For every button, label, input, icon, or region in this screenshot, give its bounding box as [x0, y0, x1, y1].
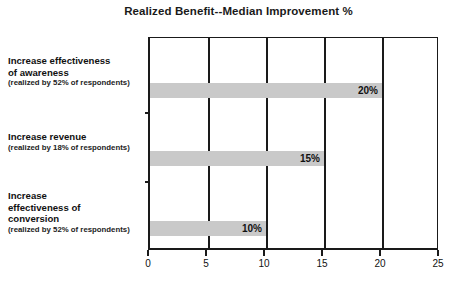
x-axis-tick-25 — [437, 250, 439, 256]
category-label-revenue-main: Increase revenue — [8, 131, 146, 143]
y-axis-tick — [145, 181, 150, 183]
category-label-awareness-sub: (realized by 52% of respondents) — [8, 78, 146, 88]
plot-area: 20%15%10% — [148, 37, 438, 250]
category-label-awareness: Increase effectiveness of awareness (rea… — [8, 55, 156, 88]
x-axis-tick-20 — [379, 250, 381, 256]
x-axis-tick-5 — [205, 250, 207, 256]
x-axis-tick-0 — [147, 250, 149, 256]
bar-value-label: 15% — [150, 151, 324, 166]
y-axis-tick — [145, 112, 150, 114]
category-label-conversion: Increase effectiveness of conversion (re… — [8, 190, 156, 235]
x-axis-label-20: 20 — [365, 258, 395, 269]
category-label-awareness-main: Increase effectiveness of awareness — [8, 55, 146, 78]
x-axis-label-15: 15 — [307, 258, 337, 269]
x-axis-tick-10 — [263, 250, 265, 256]
category-label-revenue-sub: (realized by 18% of respondents) — [8, 143, 146, 153]
category-label-revenue: Increase revenue (realized by 18% of res… — [8, 131, 156, 153]
gridline-5 — [208, 38, 210, 248]
x-axis-label-5: 5 — [191, 258, 221, 269]
bar-value-label: 10% — [150, 221, 266, 236]
gridline-15 — [324, 38, 326, 248]
gridline-10 — [266, 38, 268, 248]
bar-value-label: 20% — [150, 83, 382, 98]
x-axis-label-0: 0 — [133, 258, 163, 269]
x-axis-tick-15 — [321, 250, 323, 256]
gridline-20 — [382, 38, 384, 248]
x-axis-label-10: 10 — [249, 258, 279, 269]
chart-title: Realized Benefit--Median Improvement % — [0, 5, 463, 17]
category-label-conversion-main: Increase effectiveness of conversion — [8, 190, 146, 225]
category-label-conversion-sub: (realized by 52% of respondents) — [8, 225, 146, 235]
x-axis-label-25: 25 — [423, 258, 453, 269]
